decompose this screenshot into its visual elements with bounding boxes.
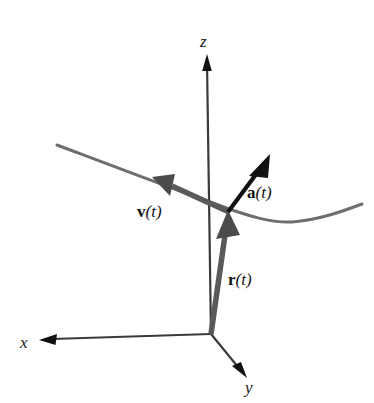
z-axis-arrowhead — [202, 54, 212, 71]
velocity-vector-arrowhead — [152, 174, 175, 196]
velocity-vector-shaft — [172, 186, 229, 212]
x-axis-line — [52, 334, 211, 339]
y-axis-label: y — [243, 378, 253, 397]
velocity-vector-label: v(t) — [137, 202, 162, 221]
z-axis-label: z — [199, 32, 207, 51]
position-vector-arrowhead — [216, 210, 240, 239]
x-axis-label: x — [19, 333, 28, 352]
axis-group-z — [202, 54, 212, 334]
position-vector-shaft — [211, 228, 226, 334]
acceleration-vector-label: a(t) — [247, 183, 272, 202]
acceleration-vector-arrowhead — [249, 154, 270, 178]
axis-group-x — [39, 334, 211, 345]
velocity-vector-label-arg: (t) — [146, 202, 162, 221]
z-axis-line — [207, 62, 211, 334]
y-axis-line — [211, 334, 238, 367]
x-axis-arrowhead — [39, 334, 57, 345]
y-axis-arrowhead — [232, 362, 247, 378]
figure-canvas: z x y r(t) v(t) a(t) — [0, 0, 374, 403]
axis-group-y — [211, 334, 247, 378]
velocity-vector — [152, 174, 229, 212]
position-vector-label: r(t) — [228, 270, 252, 289]
vector-calculus-figure: z x y r(t) v(t) a(t) — [0, 0, 374, 403]
position-vector-label-arg: (t) — [236, 270, 252, 289]
acceleration-vector-label-arg: (t) — [256, 183, 272, 202]
